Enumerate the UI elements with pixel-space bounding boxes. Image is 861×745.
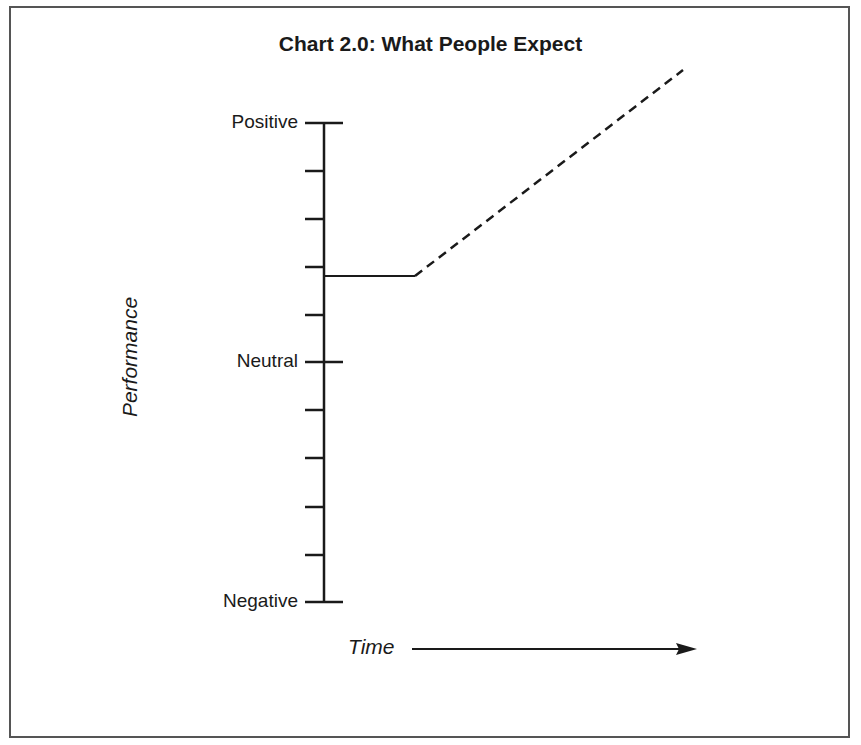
chart-plot — [0, 0, 861, 745]
expected-performance-dashed-line — [415, 70, 683, 276]
time-arrow-icon — [412, 643, 697, 655]
y-axis — [305, 123, 343, 603]
